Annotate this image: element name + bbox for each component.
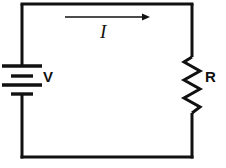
circuit-diagram-figure: V I R: [0, 0, 226, 168]
resistance-label: R: [205, 69, 216, 84]
resistor-zigzag: [184, 57, 200, 113]
voltage-label: V: [43, 69, 53, 84]
current-arrow-head: [142, 14, 150, 21]
current-arrow-symbol: [65, 14, 150, 21]
current-label: I: [100, 22, 106, 41]
circuit-schematic-svg: [0, 0, 226, 168]
battery-symbol: [2, 66, 42, 94]
resistor-symbol: [184, 57, 200, 113]
